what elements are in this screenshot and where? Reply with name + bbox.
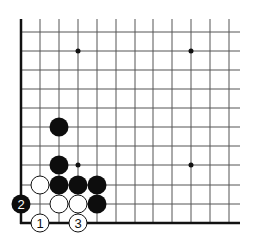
star-point — [189, 49, 194, 54]
move-number-label: 2 — [17, 197, 24, 212]
white-stone-move-3: 3 — [69, 214, 87, 232]
black-stone — [88, 176, 107, 195]
black-stone — [88, 195, 107, 214]
move-number-label: 3 — [74, 216, 81, 231]
black-stone — [50, 176, 69, 195]
star-point — [76, 49, 81, 54]
go-board: 213 — [0, 0, 256, 249]
white-stone-move-1: 1 — [31, 214, 49, 232]
white-stone — [50, 195, 68, 213]
black-stone — [69, 176, 88, 195]
move-number-label: 1 — [36, 216, 43, 231]
black-stone — [50, 118, 69, 137]
star-point — [189, 163, 194, 168]
black-stone — [50, 156, 69, 175]
white-stone — [69, 195, 87, 213]
star-point — [76, 163, 81, 168]
black-stone-move-2: 2 — [12, 195, 31, 214]
white-stone — [31, 176, 49, 194]
